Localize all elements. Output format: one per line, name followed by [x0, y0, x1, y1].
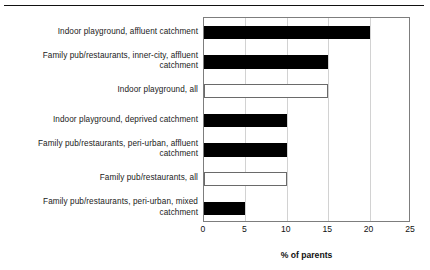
bar — [204, 26, 370, 40]
x-axis-title: % of parents — [203, 250, 410, 260]
x-tick-label: 5 — [242, 224, 247, 234]
category-axis-labels: Indoor playground, affluent catchmentFam… — [2, 17, 198, 222]
x-tick-label: 20 — [364, 224, 374, 234]
x-tick-label: 10 — [281, 224, 291, 234]
bar — [204, 202, 245, 216]
bar-chart: Indoor playground, affluent catchmentFam… — [0, 0, 430, 270]
bar — [204, 84, 328, 98]
category-label: Family pub/restaurants, all — [4, 173, 198, 183]
category-label: Family pub/restaurants, inner-city, affl… — [4, 51, 198, 71]
category-label: Indoor playground, affluent catchment — [4, 27, 198, 37]
x-axis-ticks: 0510152025 — [203, 224, 410, 238]
bar — [204, 55, 328, 69]
bar — [204, 143, 287, 157]
gridline — [287, 18, 288, 221]
gridline — [328, 18, 329, 221]
plot-area — [203, 17, 410, 222]
bar — [204, 172, 287, 186]
category-label: Indoor playground, all — [4, 85, 198, 95]
x-tick-label: 0 — [201, 224, 206, 234]
gridline — [370, 18, 371, 221]
bar — [204, 114, 287, 128]
figure: Indoor playground, affluent catchmentFam… — [0, 0, 430, 270]
category-label: Family pub/restaurants, peri-urban, affl… — [4, 139, 198, 159]
category-label: Indoor playground, deprived catchment — [4, 115, 198, 125]
x-tick-label: 15 — [322, 224, 332, 234]
category-label: Family pub/restaurants, peri-urban, mixe… — [4, 197, 198, 217]
x-tick-label: 25 — [405, 224, 415, 234]
